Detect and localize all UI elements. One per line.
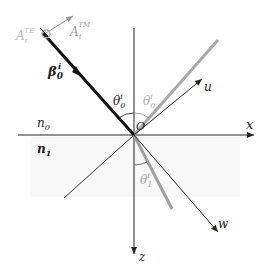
w-label: w [218,217,229,231]
lower-medium-region [30,137,240,197]
x-axis-label: x [246,117,254,132]
beta-label: β0i [47,61,64,81]
a-tm-label: AiTM [69,21,91,41]
a-te-label: AiTE [15,27,34,45]
incident-angle-arc [119,113,134,118]
a-tm-vector [46,16,73,33]
u-label: u [204,80,212,94]
n0-label: n0 [37,116,50,132]
reflected-angle-label: θ0i [143,92,155,110]
origin-label: O [136,120,145,133]
reflected-angle-arc [134,113,149,118]
reflection-refraction-diagram: AiTE AiTM β0i θ0i θ0i O u x n0 n1 θ1i w … [0,0,268,275]
incident-angle-label: θ0i [113,92,125,110]
z-axis-label: z [138,250,146,264]
incident-beam [43,33,134,135]
